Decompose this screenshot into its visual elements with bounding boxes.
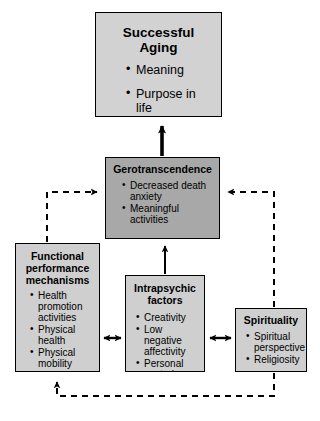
list-item: Religiosity	[246, 354, 302, 365]
list-item: Health promotion activities	[30, 290, 94, 323]
list-item: Physical mobility	[30, 347, 94, 369]
node-gerotranscendence-title: Gerotranscendence	[112, 164, 213, 176]
edge-spirituality-to-gerotranscendence	[228, 192, 274, 307]
list-item: Low negative affectivity	[136, 324, 199, 357]
node-intrapsychic-title: Intrapsychic factors	[131, 283, 199, 307]
node-intrapsychic-factors: Intrapsychic factors Creativity Low nega…	[125, 275, 205, 372]
list-item: Spiritual perspective	[246, 331, 302, 353]
node-intrapsychic-list: Creativity Low negative affectivity Pers…	[136, 312, 199, 373]
node-functional-performance-mechanisms: Functional performance mechanisms Health…	[15, 243, 100, 372]
list-item: Meaningful activities	[122, 203, 213, 225]
node-successful-aging-list: Meaning Purpose in life	[126, 64, 211, 115]
list-item: Purpose in life	[126, 88, 211, 116]
node-gerotranscendence-list: Decreased death anxiety Meaningful activ…	[122, 180, 213, 225]
node-successful-aging: Successful Aging Meaning Purpose in life	[95, 12, 222, 117]
node-gerotranscendence: Gerotranscendence Decreased death anxiet…	[105, 157, 220, 239]
node-spirituality-title: Spirituality	[240, 315, 302, 327]
node-functional-title: Functional performance mechanisms	[21, 251, 94, 286]
list-item: Physical health	[30, 324, 94, 346]
node-spirituality: Spirituality Spiritual perspective Relig…	[235, 308, 307, 372]
node-successful-aging-title: Successful Aging	[106, 25, 211, 55]
list-item: Personal control	[136, 358, 199, 373]
diagram-canvas: Successful Aging Meaning Purpose in life…	[0, 0, 320, 421]
node-functional-list: Health promotion activities Physical hea…	[30, 290, 94, 369]
node-spirituality-list: Spiritual perspective Religiosity	[246, 331, 302, 365]
edge-spirituality-to-functional	[57, 373, 274, 396]
list-item: Decreased death anxiety	[122, 180, 213, 202]
list-item: Creativity	[136, 312, 199, 323]
edge-functional-to-gerotranscendence	[47, 192, 97, 242]
list-item: Meaning	[126, 64, 211, 78]
